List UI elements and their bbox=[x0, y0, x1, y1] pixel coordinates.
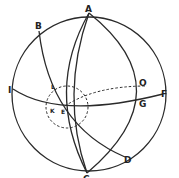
great-circle-b-d bbox=[39, 31, 125, 157]
label-e: E bbox=[61, 108, 65, 115]
label-g: G bbox=[139, 99, 146, 109]
label-b: B bbox=[35, 21, 42, 31]
label-a: A bbox=[85, 4, 92, 14]
label-l: L bbox=[51, 83, 55, 90]
sphere-diagram: A B I F O G L K E C D bbox=[0, 0, 179, 178]
meridian-left bbox=[66, 13, 89, 173]
label-c: C bbox=[83, 174, 90, 178]
label-d: D bbox=[124, 155, 131, 165]
label-f: F bbox=[161, 89, 167, 99]
label-i: I bbox=[8, 85, 11, 95]
label-k: K bbox=[50, 107, 55, 114]
label-o: O bbox=[139, 78, 147, 88]
